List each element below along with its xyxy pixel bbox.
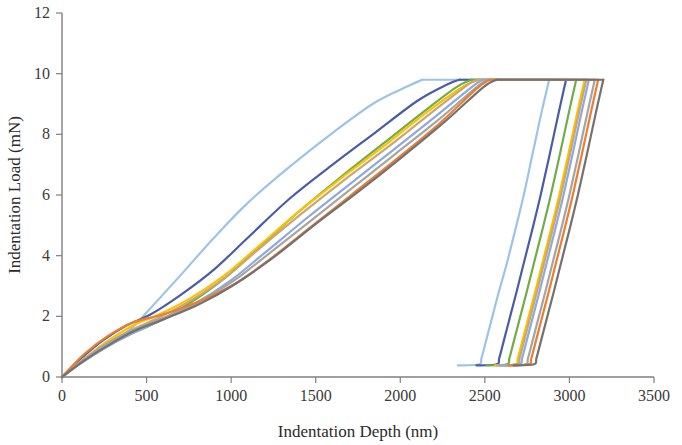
x-tick-label: 500	[135, 387, 159, 404]
x-tick-label: 2000	[384, 387, 416, 404]
unloading-segment	[458, 80, 549, 366]
y-tick-label: 0	[42, 368, 50, 385]
indentation-curve	[62, 80, 603, 377]
y-tick-label: 10	[34, 65, 50, 82]
y-tick-label: 6	[42, 186, 50, 203]
x-tick-label: 1000	[215, 387, 247, 404]
y-tick-label: 4	[42, 247, 50, 264]
x-tick-label: 3000	[553, 387, 585, 404]
x-tick-layer: 0500100015002000250030003500	[58, 377, 670, 404]
x-tick-label: 1500	[300, 387, 332, 404]
indentation-curve	[62, 80, 576, 377]
indentation-load-depth-chart: 0500100015002000250030003500 024681012 I…	[0, 0, 682, 445]
x-axis-title: Indentation Depth (nm)	[278, 422, 439, 441]
y-tick-label: 8	[42, 125, 50, 142]
indentation-curve	[62, 80, 589, 377]
y-tick-label: 2	[42, 307, 50, 324]
indentation-curve	[62, 80, 598, 377]
chart-page: 0500100015002000250030003500 024681012 I…	[0, 0, 682, 445]
loading-segment	[62, 80, 478, 377]
y-tick-layer: 024681012	[34, 4, 62, 385]
indentation-curve	[62, 80, 586, 377]
x-tick-label: 3500	[638, 387, 670, 404]
x-tick-label: 2500	[469, 387, 501, 404]
curves-layer	[62, 80, 603, 377]
y-tick-label: 12	[34, 4, 50, 21]
indentation-curve	[62, 80, 566, 377]
x-tick-label: 0	[58, 387, 66, 404]
y-axis-title: Indentation Load (mN)	[5, 116, 24, 274]
